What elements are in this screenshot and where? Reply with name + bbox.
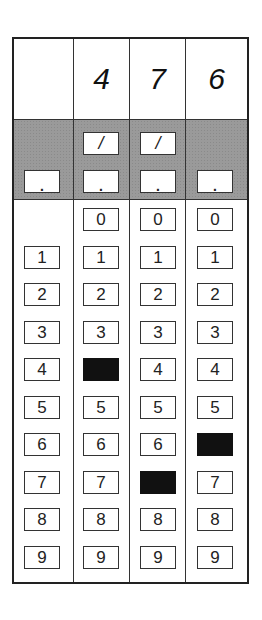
- digit-bubble-col-1-6[interactable]: 6: [24, 433, 60, 456]
- digit-bubble-col-4-5[interactable]: 5: [197, 396, 233, 419]
- slash-bubble-col-2[interactable]: /: [83, 132, 119, 155]
- column-divider: [129, 39, 130, 582]
- column-divider: [185, 39, 186, 582]
- digit-bubble-col-3-1[interactable]: 1: [140, 246, 176, 269]
- answer-digit-col-4: 6: [186, 39, 247, 119]
- digit-bubble-col-3-0[interactable]: 0: [140, 208, 176, 231]
- digit-bubble-col-4-4[interactable]: 4: [197, 358, 233, 381]
- digit-bubble-col-4-6[interactable]: 6: [197, 433, 233, 456]
- digit-bubble-col-4-8[interactable]: 8: [197, 508, 233, 531]
- digit-bubble-col-3-8[interactable]: 8: [140, 508, 176, 531]
- digit-bubble-col-3-7[interactable]: 7: [140, 471, 176, 494]
- digit-bubble-col-2-8[interactable]: 8: [83, 508, 119, 531]
- digit-bubble-col-3-6[interactable]: 6: [140, 433, 176, 456]
- digit-bubble-col-3-9[interactable]: 9: [140, 546, 176, 569]
- dot-bubble-col-4[interactable]: .: [197, 170, 233, 193]
- digit-bubble-col-2-1[interactable]: 1: [83, 246, 119, 269]
- digit-bubble-col-4-0[interactable]: 0: [197, 208, 233, 231]
- digit-bubble-col-2-2[interactable]: 2: [83, 283, 119, 306]
- digit-bubble-col-4-1[interactable]: 1: [197, 246, 233, 269]
- dot-bubble-col-1[interactable]: .: [24, 170, 60, 193]
- answer-digit-col-3: 7: [130, 39, 185, 119]
- digit-bubble-col-1-9[interactable]: 9: [24, 546, 60, 569]
- answer-digit-col-2: 4: [74, 39, 129, 119]
- dot-bubble-col-3[interactable]: .: [140, 170, 176, 193]
- answer-grid: 4 7 6 / / . . . . 1234567890123456789012…: [12, 37, 249, 584]
- digit-bubble-col-1-2[interactable]: 2: [24, 283, 60, 306]
- digit-bubble-col-4-7[interactable]: 7: [197, 471, 233, 494]
- digit-bubble-col-1-7[interactable]: 7: [24, 471, 60, 494]
- digit-bubble-col-2-6[interactable]: 6: [83, 433, 119, 456]
- digit-bubble-col-3-3[interactable]: 3: [140, 321, 176, 344]
- digit-bubble-col-2-5[interactable]: 5: [83, 396, 119, 419]
- dot-bubble-col-2[interactable]: .: [83, 170, 119, 193]
- digit-bubble-col-3-4[interactable]: 4: [140, 358, 176, 381]
- digit-bubble-col-2-7[interactable]: 7: [83, 471, 119, 494]
- digit-bubble-col-2-4[interactable]: 4: [83, 358, 119, 381]
- digit-bubble-col-2-0[interactable]: 0: [83, 208, 119, 231]
- digit-bubble-col-4-9[interactable]: 9: [197, 546, 233, 569]
- digit-bubble-col-2-9[interactable]: 9: [83, 546, 119, 569]
- column-divider: [73, 39, 74, 582]
- digit-bubble-col-4-3[interactable]: 3: [197, 321, 233, 344]
- digit-bubble-col-1-5[interactable]: 5: [24, 396, 60, 419]
- digit-bubble-col-1-3[interactable]: 3: [24, 321, 60, 344]
- digit-bubble-col-4-2[interactable]: 2: [197, 283, 233, 306]
- digit-bubble-col-3-2[interactable]: 2: [140, 283, 176, 306]
- digit-bubble-col-1-1[interactable]: 1: [24, 246, 60, 269]
- digit-bubble-col-1-8[interactable]: 8: [24, 508, 60, 531]
- slash-bubble-col-3[interactable]: /: [140, 132, 176, 155]
- digit-bubble-col-2-3[interactable]: 3: [83, 321, 119, 344]
- digit-bubble-col-3-5[interactable]: 5: [140, 396, 176, 419]
- digit-bubble-col-1-4[interactable]: 4: [24, 358, 60, 381]
